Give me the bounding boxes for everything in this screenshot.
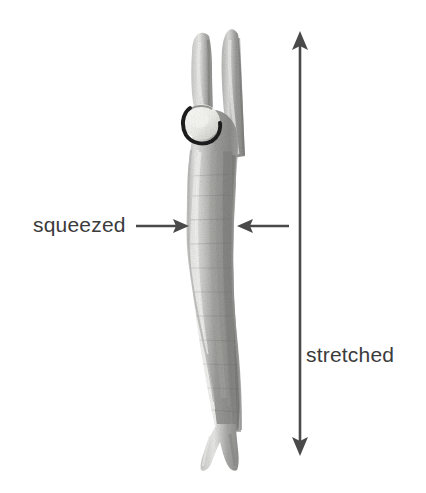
figure-container: squeezed stretched bbox=[0, 0, 426, 493]
label-squeezed: squeezed bbox=[33, 214, 126, 235]
squeezed-arrow-right bbox=[237, 219, 289, 233]
stretched-arrow-vertical bbox=[292, 31, 308, 456]
squeezed-arrow-left bbox=[136, 219, 189, 233]
annotation-arrows bbox=[0, 0, 426, 493]
label-stretched: stretched bbox=[306, 344, 394, 365]
